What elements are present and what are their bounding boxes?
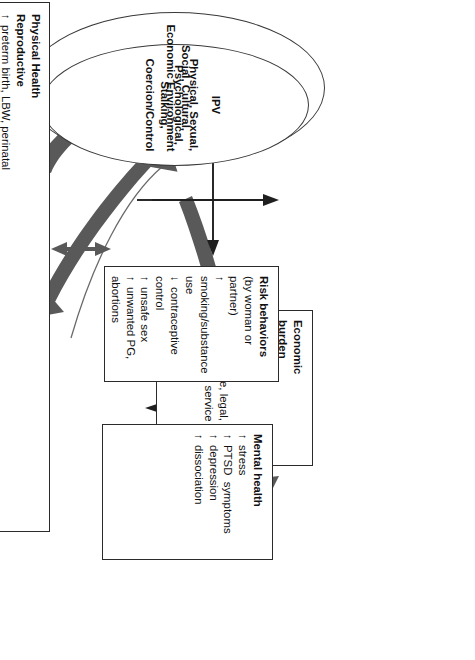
risk-behaviors-item-arrow: ↑ bbox=[123, 276, 138, 287]
physical-health-box: Physical Health Reproductive↑preterm bir… bbox=[0, 2, 50, 532]
physical-health-group-list: ↑preterm birth, LBW, perinataldeath↑mate… bbox=[0, 14, 13, 524]
mental-health-item: ↑dissociation bbox=[191, 434, 206, 552]
physical-health-item-arrow: ↑ bbox=[0, 14, 13, 25]
risk-behaviors-item-text: contraceptive control bbox=[154, 276, 181, 358]
mental-health-item-text: dissociation bbox=[193, 445, 205, 505]
mental-health-item-arrow: ↑ bbox=[191, 434, 206, 445]
physical-health-groups: Reproductive↑preterm birth, LBW, perinat… bbox=[0, 14, 28, 524]
ipv-acronym: IPV bbox=[208, 44, 223, 166]
physical-health-title: Physical Health bbox=[28, 14, 43, 524]
mental-health-item-text: stress bbox=[237, 445, 249, 475]
mental-health-box: Mental health ↑stress↑PTSD symptoms↑depr… bbox=[102, 424, 273, 560]
diagram-canvas: Social, Cultural, Economic Environment I… bbox=[0, 0, 475, 660]
risk-behaviors-item: ↑unsafe sex bbox=[138, 276, 153, 374]
mental-health-item-arrow: ↑ bbox=[221, 434, 236, 445]
ipv-acronym-text: IPV bbox=[210, 96, 222, 114]
risk-behaviors-item-text: unsafe sex bbox=[139, 287, 151, 342]
physical-health-item: ↑preterm birth, LBW, perinatal bbox=[0, 14, 13, 524]
risk-behaviors-item: ↑unwanted PG, abortions bbox=[108, 276, 138, 374]
risk-behaviors-item-text: unwanted PG, abortions bbox=[110, 276, 137, 362]
risk-behaviors-list: ↑smoking/substance use↓contraceptive con… bbox=[108, 276, 227, 374]
mental-health-title: Mental health bbox=[250, 434, 265, 552]
risk-behaviors-title: Risk behaviors bbox=[256, 276, 271, 374]
mental-health-item-text: depression bbox=[208, 445, 220, 501]
mental-health-item-arrow: ↑ bbox=[235, 434, 250, 445]
arrow-risk-behaviors-to-economic-burden bbox=[137, 194, 279, 206]
arrow-ipv-to-risk-behaviors bbox=[207, 160, 219, 256]
risk-behaviors-item-text: smoking/substance use bbox=[184, 276, 211, 377]
risk-behaviors-item-arrow: ↑ bbox=[138, 276, 153, 287]
risk-behaviors-item: ↑smoking/substance use bbox=[182, 276, 226, 374]
risk-behaviors-box: Risk behaviors (by woman or partner) ↑sm… bbox=[104, 266, 279, 382]
risk-behaviors-item-arrow: ↑ bbox=[212, 276, 227, 287]
risk-behaviors-item-arrow: ↓ bbox=[167, 276, 182, 287]
risk-behaviors-item: ↓contraceptive control bbox=[152, 276, 182, 374]
ipv-description-text: Physical, Sexual, Psychological, Stalkin… bbox=[144, 58, 200, 151]
ipv-description: Physical, Sexual, Psychological, Stalkin… bbox=[143, 40, 201, 170]
economic-burden-title: Economic bbox=[290, 320, 305, 458]
physical-health-item-text: preterm birth, LBW, perinatal bbox=[0, 25, 12, 170]
mental-health-item: ↑stress bbox=[235, 434, 250, 552]
mental-health-item: ↑depression bbox=[206, 434, 221, 552]
risk-behaviors-subtitle: (by woman or partner) bbox=[227, 276, 257, 374]
mental-health-item-text: PTSD symptoms bbox=[222, 445, 234, 534]
mental-health-item: ↑PTSD symptoms bbox=[221, 434, 236, 552]
mental-health-list: ↑stress↑PTSD symptoms↑depression↑dissoci… bbox=[191, 434, 250, 552]
physical-health-group-heading: Reproductive bbox=[13, 14, 28, 524]
mental-health-item-arrow: ↑ bbox=[206, 434, 221, 445]
